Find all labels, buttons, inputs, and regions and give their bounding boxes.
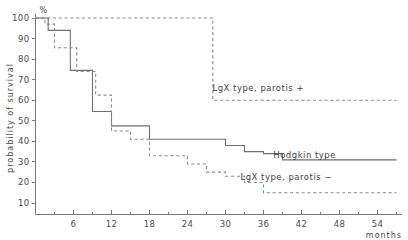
y-axis-unit-label: % (40, 6, 48, 15)
x-axis-title: months (366, 231, 402, 240)
y-tick-label: 50 (18, 116, 30, 126)
y-tick-label: 20 (18, 177, 30, 187)
x-tick-label: 18 (144, 219, 156, 229)
chart-ticks (32, 18, 397, 215)
survival-curve-2 (36, 18, 397, 193)
survival-chart: 10203040506070809010061218243036424854 L… (0, 0, 408, 240)
x-tick-label: 12 (106, 219, 118, 229)
chart-legend: LgX type, parotis +Hodgkin typeLgX type,… (212, 83, 336, 182)
y-tick-label: 80 (18, 54, 30, 64)
x-tick-label: 54 (372, 219, 384, 229)
x-tick-label: 30 (220, 219, 232, 229)
chart-axis-titles: %probability of survivalmonths (6, 6, 402, 240)
y-tick-label: 70 (18, 75, 30, 85)
y-tick-label: 30 (18, 157, 30, 167)
y-tick-label: 10 (18, 198, 30, 208)
chart-page: 10203040506070809010061218243036424854 L… (0, 0, 408, 240)
y-axis-title: probability of survival (6, 63, 15, 173)
y-tick-label: 60 (18, 95, 30, 105)
legend-label-2: LgX type, parotis − (240, 172, 332, 182)
chart-curves (36, 18, 397, 193)
y-tick-label: 90 (18, 34, 30, 44)
y-tick-label: 100 (12, 13, 29, 23)
x-tick-label: 42 (296, 219, 308, 229)
y-tick-label: 40 (18, 136, 30, 146)
x-tick-label: 48 (334, 219, 346, 229)
legend-label-0: LgX type, parotis + (212, 83, 304, 93)
chart-tick-labels: 10203040506070809010061218243036424854 (12, 13, 383, 229)
chart-axes (36, 14, 403, 215)
x-tick-label: 24 (182, 219, 194, 229)
legend-label-1: Hodgkin type (273, 150, 336, 160)
x-tick-label: 36 (258, 219, 270, 229)
x-tick-label: 6 (71, 219, 77, 229)
